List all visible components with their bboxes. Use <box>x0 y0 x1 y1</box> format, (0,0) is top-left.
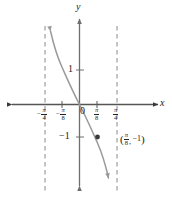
fraction-pi-over-4: π4 <box>41 107 46 121</box>
fraction-pi-over-8: π8 <box>60 107 65 121</box>
x-tick-label-pi-4: π4 <box>113 107 118 121</box>
point-coordinate-annotation: (π8,−1) <box>120 132 145 146</box>
fraction-pi-over-4: π4 <box>113 107 118 121</box>
x-tick-label-pi-8: π8 <box>94 107 99 121</box>
fraction-denominator: 8 <box>60 115 65 122</box>
fraction-denominator: 4 <box>113 115 118 122</box>
y-axis-label: y <box>76 2 80 12</box>
comma: , <box>129 138 131 146</box>
y-tick-label-neg1: −1 <box>59 131 70 141</box>
y-tick-label-1: 1 <box>68 64 73 74</box>
minus-sign: − <box>56 111 60 118</box>
fraction-denominator: 4 <box>41 115 46 122</box>
fraction-denominator: 8 <box>94 115 99 122</box>
close-paren: ) <box>141 134 145 145</box>
y-value: −1 <box>132 135 141 143</box>
plot-canvas <box>0 0 172 203</box>
x-tick-label-neg-pi-8: −π8 <box>56 107 66 121</box>
x-axis-label: x <box>160 98 164 108</box>
marked-point <box>95 135 100 140</box>
fraction-pi-over-8: π8 <box>94 107 99 121</box>
minus-sign: − <box>37 111 41 118</box>
graph-figure: x y 0 1 −1 −π4 −π8 π8 π4 (π8,−1) <box>0 0 172 203</box>
x-tick-label-neg-pi-4: −π4 <box>37 107 47 121</box>
origin-label: 0 <box>80 106 85 116</box>
